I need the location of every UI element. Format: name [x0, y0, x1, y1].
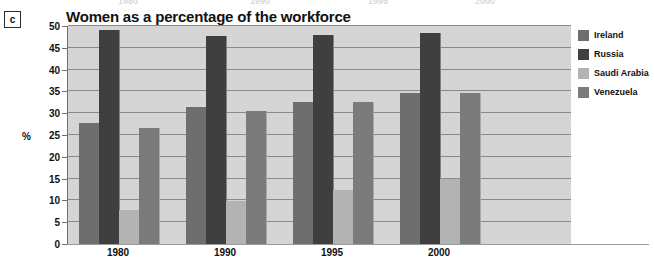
- y-tick-label: 20: [49, 151, 60, 162]
- bar: [460, 93, 481, 244]
- x-tick-label: 1995: [321, 247, 343, 258]
- bar: [79, 123, 100, 244]
- legend-label: Saudi Arabia: [594, 68, 649, 78]
- y-tick-label: 40: [49, 64, 60, 75]
- ghost-year-label: 1990: [250, 0, 270, 6]
- bar: [313, 35, 334, 244]
- bar: [440, 179, 461, 244]
- x-axis-labels: 1980199019952000: [0, 247, 654, 263]
- bar: [99, 30, 120, 245]
- ghost-year-label: 1995: [368, 0, 388, 6]
- legend-swatch: [578, 30, 589, 41]
- legend-item: Saudi Arabia: [578, 65, 652, 81]
- x-axis-baseline: [67, 244, 649, 245]
- legend-item: Ireland: [578, 27, 652, 43]
- y-tick-label: 10: [49, 195, 60, 206]
- bar: [293, 102, 314, 244]
- bar: [119, 210, 140, 244]
- bar: [226, 201, 247, 244]
- bar: [420, 33, 441, 244]
- ghost-year-label: 1980: [118, 0, 138, 6]
- bar: [139, 128, 160, 244]
- bar: [400, 93, 421, 244]
- legend-label: Ireland: [594, 30, 624, 40]
- legend-swatch: [578, 68, 589, 79]
- plot-area: [67, 26, 571, 244]
- bar-series-group: [68, 26, 571, 244]
- y-tick-label: 30: [49, 108, 60, 119]
- y-tick-label: 5: [54, 217, 60, 228]
- bar: [333, 190, 354, 244]
- x-tick-label: 1990: [214, 247, 236, 258]
- chart-title: Women as a percentage of the workforce: [66, 8, 351, 25]
- legend-swatch: [578, 87, 589, 98]
- legend-swatch: [578, 49, 589, 60]
- y-tick-label: 45: [49, 42, 60, 53]
- x-tick-label: 1980: [107, 247, 129, 258]
- bar: [353, 102, 374, 244]
- legend-item: Russia: [578, 46, 652, 62]
- bar: [206, 36, 227, 244]
- legend-label: Russia: [594, 49, 624, 59]
- ghost-year-label: 2000: [475, 0, 495, 6]
- bar: [186, 107, 207, 244]
- y-tick-label: 25: [49, 130, 60, 141]
- legend: IrelandRussiaSaudi ArabiaVenezuela: [578, 27, 652, 103]
- y-axis-ticks: 05101520253035404550: [0, 0, 67, 270]
- bar: [246, 111, 267, 244]
- legend-item: Venezuela: [578, 84, 652, 100]
- y-tick-label: 35: [49, 86, 60, 97]
- y-tick-label: 50: [49, 21, 60, 32]
- y-tick-label: 15: [49, 173, 60, 184]
- x-tick-label: 2000: [428, 247, 450, 258]
- legend-label: Venezuela: [594, 87, 638, 97]
